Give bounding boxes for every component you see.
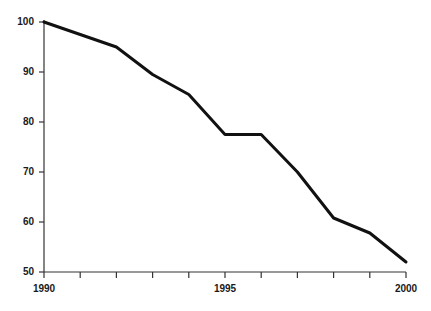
y-axis-tick-label: 50 <box>6 266 34 277</box>
data-series-line <box>44 22 406 262</box>
y-axis-tick-label: 80 <box>6 116 34 127</box>
line-chart: 1009080706050 199019952000 <box>0 0 431 311</box>
y-axis-tick-label: 100 <box>6 16 34 27</box>
y-axis-tick-label: 70 <box>6 166 34 177</box>
y-axis-tick-label: 60 <box>6 216 34 227</box>
x-axis-tick-label: 1995 <box>205 283 245 294</box>
x-axis-tick-label: 2000 <box>386 283 426 294</box>
x-axis-ticks <box>44 272 406 278</box>
y-axis-tick-label: 90 <box>6 66 34 77</box>
y-axis-ticks <box>39 22 44 272</box>
chart-plot-area <box>0 0 431 311</box>
x-axis-tick-label: 1990 <box>24 283 64 294</box>
